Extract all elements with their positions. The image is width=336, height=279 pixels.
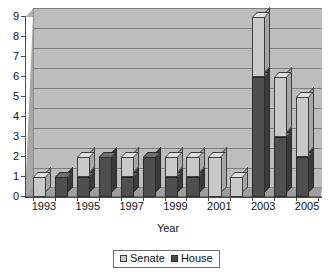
bar-face-side xyxy=(287,67,292,132)
bar-segment-house[interactable] xyxy=(143,157,156,197)
bar-face-front xyxy=(143,157,156,197)
bar-face-front xyxy=(121,177,134,197)
bar-face-side xyxy=(287,127,292,192)
bar-segment-house[interactable] xyxy=(121,177,134,197)
bar-face-side xyxy=(243,167,248,192)
x-axis-labels: 1993199519971999200120032005 xyxy=(0,201,336,219)
bar-group[interactable] xyxy=(252,17,265,197)
bar-face-front xyxy=(33,177,46,197)
bar-segment-house[interactable] xyxy=(274,137,287,197)
x-axis-title: Year xyxy=(0,222,336,234)
bar-face-front xyxy=(55,177,68,197)
bar-segment-house[interactable] xyxy=(165,177,178,197)
bar-face-side xyxy=(46,167,51,192)
bar-face-front xyxy=(165,157,178,177)
bar-segment-house[interactable] xyxy=(99,157,112,197)
bar-face-front xyxy=(296,157,309,197)
bar-face-side xyxy=(265,7,270,72)
bar-segment-senate[interactable] xyxy=(252,17,265,77)
bar-group[interactable] xyxy=(121,157,134,197)
x-axis-tick-label: 2005 xyxy=(287,201,327,212)
bar-group[interactable] xyxy=(230,177,243,197)
legend-item-senate[interactable]: Senate xyxy=(120,253,165,264)
bar-face-front xyxy=(77,177,90,197)
chart-legend: Senate House xyxy=(113,250,220,268)
bar-group[interactable] xyxy=(55,177,68,197)
bar-segment-house[interactable] xyxy=(252,77,265,197)
bar-segment-house[interactable] xyxy=(77,177,90,197)
bar-face-front xyxy=(230,177,243,197)
bar-segment-senate[interactable] xyxy=(33,177,46,197)
bar-group[interactable] xyxy=(296,97,309,197)
bar-segment-house[interactable] xyxy=(186,177,199,197)
x-axis-tick-label: 1995 xyxy=(68,201,108,212)
bar-face-front xyxy=(274,137,287,197)
bar-group[interactable] xyxy=(165,157,178,197)
bar-segment-senate[interactable] xyxy=(230,177,243,197)
bar-group[interactable] xyxy=(99,157,112,197)
bar-segment-senate[interactable] xyxy=(165,157,178,177)
bar-group[interactable] xyxy=(186,157,199,197)
bar-face-front xyxy=(186,177,199,197)
x-axis-tick-label: 1993 xyxy=(24,201,64,212)
bar-face-front xyxy=(186,157,199,177)
bar-series-group xyxy=(0,0,336,215)
bar-segment-senate[interactable] xyxy=(186,157,199,177)
bar-segment-senate[interactable] xyxy=(121,157,134,177)
x-axis-tick-label: 2001 xyxy=(199,201,239,212)
x-axis-tick-label: 1999 xyxy=(156,201,196,212)
bar-face-side xyxy=(265,67,270,192)
bar-segment-house[interactable] xyxy=(296,157,309,197)
house-swatch-icon xyxy=(171,255,178,262)
bar-face-front xyxy=(296,97,309,157)
bar-face-side xyxy=(68,167,73,192)
plot-area: 0123456789 xyxy=(0,0,336,215)
legend-label-senate: Senate xyxy=(130,253,165,264)
bar-segment-senate[interactable] xyxy=(208,157,221,197)
bar-group[interactable] xyxy=(208,157,221,197)
bar-face-front xyxy=(252,17,265,77)
bar-group[interactable] xyxy=(33,177,46,197)
bar-group[interactable] xyxy=(143,157,156,197)
bar-face-front xyxy=(121,157,134,177)
x-axis-tick-label: 2003 xyxy=(243,201,283,212)
bar-face-front xyxy=(165,177,178,197)
bar-face-front xyxy=(99,157,112,197)
chart-container: 0123456789 1993199519971999200120032005 … xyxy=(0,0,336,279)
legend-item-house[interactable]: House xyxy=(171,253,213,264)
bar-face-front xyxy=(77,157,90,177)
bar-face-front xyxy=(252,77,265,197)
bar-group[interactable] xyxy=(274,77,287,197)
bar-segment-house[interactable] xyxy=(55,177,68,197)
legend-label-house: House xyxy=(181,253,213,264)
bar-face-front xyxy=(274,77,287,137)
x-axis-tick-label: 1997 xyxy=(112,201,152,212)
bar-segment-senate[interactable] xyxy=(296,97,309,157)
bar-face-front xyxy=(208,157,221,197)
senate-swatch-icon xyxy=(120,255,127,262)
bar-segment-senate[interactable] xyxy=(77,157,90,177)
bar-group[interactable] xyxy=(77,157,90,197)
bar-face-side xyxy=(309,87,314,152)
bar-segment-senate[interactable] xyxy=(274,77,287,137)
